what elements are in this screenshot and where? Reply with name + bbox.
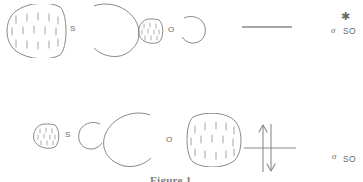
atom-label-sulfur-bottom: S	[65, 131, 71, 139]
mo-subscript-so-bonding: SO	[343, 155, 356, 164]
sulfur-small-hatched-lobe-bottom	[32, 122, 62, 150]
bonding-energy-level	[242, 120, 302, 176]
sigma-symbol-bonding: σ	[332, 151, 336, 161]
oxygen-large-hatched-lobe-bottom	[183, 113, 243, 167]
mo-label-sigma-bonding: σ SO	[332, 146, 336, 162]
bonding-row: S O	[0, 0, 363, 182]
atom-label-oxygen-bottom: O	[166, 136, 172, 144]
oxygen-large-crescent-lobe-bottom	[100, 110, 156, 168]
figure-canvas: S O σ ✱	[0, 0, 363, 182]
figure-caption: Figure 1	[150, 174, 192, 182]
